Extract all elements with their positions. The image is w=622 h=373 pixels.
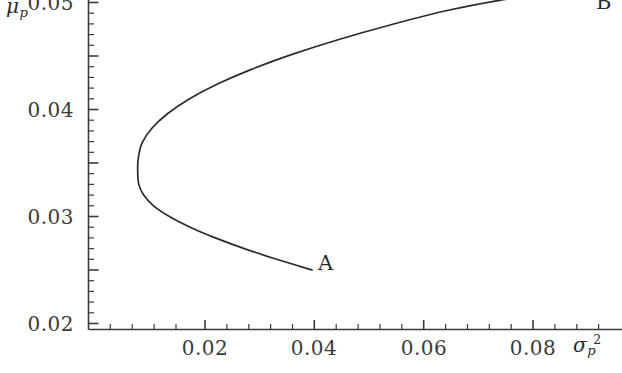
annotation-label-b: B [596, 0, 611, 13]
chart-figure: 0.05 0.04 0.03 0.02 0.01 0.02 0.04 0.06 … [0, 0, 622, 373]
x-tick-label-0.06: 0.06 [384, 338, 464, 358]
frontier-curve [138, 0, 593, 270]
y-major-ticks [89, 3, 99, 324]
x-axis-title-symbol: σ [573, 333, 587, 357]
y-tick-label-0.03: 0.03 [0, 207, 74, 227]
plot-area [0, 0, 622, 373]
x-axis-title-superscript: 2 [593, 332, 601, 347]
x-minor-ticks [110, 324, 598, 330]
annotation-label-a: A [318, 253, 333, 274]
x-tick-label-0.04: 0.04 [274, 338, 354, 358]
x-axis-title: σp2 [573, 334, 601, 358]
y-axis-title-subscript: p [20, 5, 28, 20]
y-tick-label-0.02: 0.02 [0, 314, 74, 334]
x-tick-label-0.02: 0.02 [165, 338, 245, 358]
y-axis-title-symbol: μ [6, 0, 19, 18]
x-tick-label-0.08: 0.08 [493, 338, 573, 358]
y-tick-label-0.04: 0.04 [0, 100, 74, 120]
x-major-ticks [205, 320, 533, 330]
y-axis-title: μp [6, 0, 28, 19]
